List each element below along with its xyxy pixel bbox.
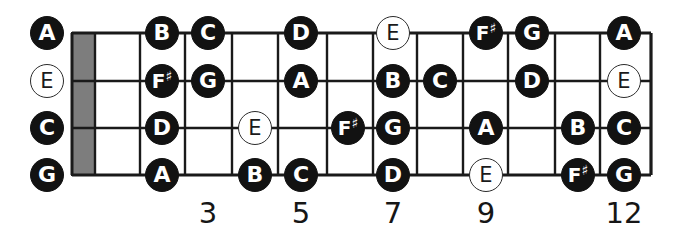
note-letter: B — [570, 117, 587, 139]
note-marker-d: D — [145, 111, 179, 145]
note-letter: B — [154, 22, 171, 44]
note-letter: F — [476, 23, 490, 43]
note-letter: B — [247, 164, 264, 186]
note-marker-e: E — [607, 64, 641, 98]
open-string-note-c: C — [30, 111, 64, 145]
note-letter: G — [38, 164, 56, 186]
note-letter: A — [38, 22, 55, 44]
note-marker-b: B — [145, 16, 179, 50]
note-letter: C — [200, 22, 216, 44]
note-letter: D — [523, 70, 541, 92]
sharp-icon: ♯ — [581, 163, 588, 177]
note-marker-g: G — [515, 16, 549, 50]
note-marker-b: B — [376, 64, 410, 98]
note-marker-fsharp: F♯ — [561, 158, 595, 192]
note-letter: G — [523, 22, 541, 44]
note-letter: D — [292, 22, 310, 44]
note-letter: F — [152, 71, 166, 91]
note-marker-d: D — [376, 158, 410, 192]
note-letter: F — [568, 165, 582, 185]
sharp-icon: ♯ — [351, 116, 358, 130]
note-marker-e: E — [238, 111, 272, 145]
note-letter: C — [616, 117, 632, 139]
note-marker-c: C — [423, 64, 457, 98]
note-marker-e: E — [469, 158, 503, 192]
note-marker-c: C — [191, 16, 225, 50]
note-marker-a: A — [607, 16, 641, 50]
fret-number-7: 7 — [384, 199, 402, 228]
open-string-note-a: A — [30, 16, 64, 50]
note-letter: E — [386, 22, 399, 43]
note-letter: C — [39, 117, 55, 139]
note-letter: B — [385, 70, 402, 92]
note-letter: G — [615, 164, 633, 186]
note-letter: E — [479, 164, 492, 185]
note-marker-a: A — [284, 64, 318, 98]
fret-number-5: 5 — [292, 199, 310, 228]
nut — [72, 33, 95, 175]
note-letter: G — [384, 117, 402, 139]
fret-number-12: 12 — [606, 199, 643, 228]
note-letter: E — [40, 70, 53, 91]
note-letter: D — [153, 117, 171, 139]
note-letter: A — [615, 22, 632, 44]
note-marker-a: A — [469, 111, 503, 145]
note-letter: C — [293, 164, 309, 186]
note-letter: D — [384, 164, 402, 186]
note-marker-e: E — [376, 16, 410, 50]
open-string-note-g: G — [30, 158, 64, 192]
note-letter: A — [477, 117, 494, 139]
note-letter: C — [432, 70, 448, 92]
note-marker-b: B — [561, 111, 595, 145]
note-marker-g: G — [376, 111, 410, 145]
note-marker-c: C — [284, 158, 318, 192]
note-letter: G — [199, 70, 217, 92]
note-marker-d: D — [284, 16, 318, 50]
note-marker-d: D — [515, 64, 549, 98]
note-marker-g: G — [607, 158, 641, 192]
note-marker-c: C — [607, 111, 641, 145]
note-letter: A — [153, 164, 170, 186]
open-string-note-e: E — [30, 64, 64, 98]
note-letter: A — [292, 70, 309, 92]
note-letter: F — [338, 118, 352, 138]
sharp-icon: ♯ — [165, 69, 172, 83]
note-marker-fsharp: F♯ — [145, 64, 179, 98]
fret-number-9: 9 — [477, 199, 495, 228]
note-letter: E — [248, 117, 261, 138]
note-marker-g: G — [191, 64, 225, 98]
note-marker-fsharp: F♯ — [331, 111, 365, 145]
note-letter: E — [617, 70, 630, 91]
fretboard-diagram: AECG BCDEF♯GAF♯GABCDEDEF♯GABCABCDEF♯G 35… — [0, 0, 682, 244]
note-marker-fsharp: F♯ — [469, 16, 503, 50]
note-marker-a: A — [145, 158, 179, 192]
note-marker-b: B — [238, 158, 272, 192]
fret-number-3: 3 — [199, 199, 217, 228]
sharp-icon: ♯ — [489, 21, 496, 35]
